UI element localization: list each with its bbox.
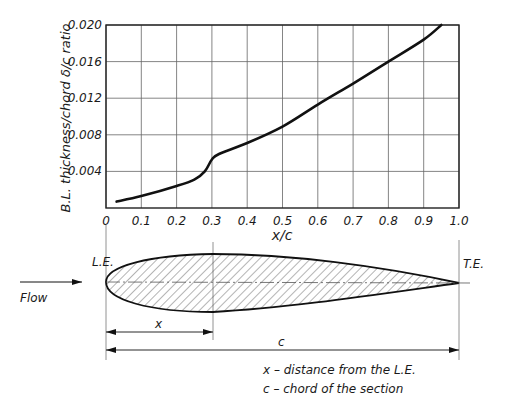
legend-c: c – chord of the section <box>263 382 403 396</box>
le-label: L.E. <box>92 255 114 269</box>
y-axis-label: B.L. thickness/chord δ/c ratio <box>58 23 73 212</box>
flow-label: Flow <box>20 291 48 305</box>
x-tick-label: 0.8 <box>379 214 398 228</box>
x-dimension-label: x <box>154 317 163 331</box>
x-tick-label: 1.0 <box>449 214 468 228</box>
airfoil-section <box>106 254 459 312</box>
x-tick-label: 0.6 <box>308 214 327 228</box>
te-label: T.E. <box>463 257 484 271</box>
x-tick-label: 0.7 <box>344 214 363 228</box>
figure: 00.10.20.30.40.50.60.70.80.91.0 0.0040.0… <box>0 0 506 415</box>
x-tick-label: 0.5 <box>273 214 292 228</box>
legend-x: x – distance from the L.E. <box>262 363 416 377</box>
x-tick-label: 0.4 <box>238 214 257 228</box>
x-tick-label: 0.1 <box>132 214 151 228</box>
x-tick-label: 0.3 <box>202 214 221 228</box>
chart-grid <box>106 25 459 208</box>
delta-c-curve <box>117 25 442 202</box>
x-tick-label: 0.9 <box>414 214 433 228</box>
x-tick-label: 0.2 <box>167 214 186 228</box>
x-axis-label: x/c <box>271 227 293 243</box>
c-dimension-label: c <box>278 335 285 349</box>
x-tick-labels: 00.10.20.30.40.50.60.70.80.91.0 <box>102 214 469 228</box>
